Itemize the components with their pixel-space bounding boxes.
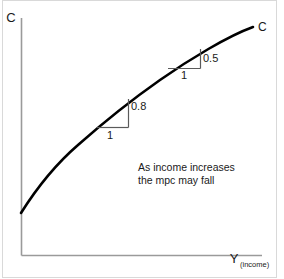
annotation-line-2: the mpc may fall — [138, 174, 214, 186]
y-axis-label: C — [6, 10, 15, 25]
x-axis-label: Y — [230, 251, 239, 266]
lower-slope-run-label: 1 — [107, 129, 113, 141]
consumption-function-figure: C Y (income) C 0.8 1 0.5 1 As income inc… — [0, 0, 284, 279]
chart-canvas: C Y (income) C 0.8 1 0.5 1 As income inc… — [0, 0, 284, 279]
figure-frame — [3, 1, 277, 278]
upper-slope-rise-label: 0.5 — [203, 52, 218, 64]
annotation-line-1: As income increases — [138, 161, 235, 173]
x-axis-sublabel: (income) — [240, 260, 270, 269]
lower-slope-rise-label: 0.8 — [131, 100, 146, 112]
curve-label: C — [258, 20, 267, 34]
upper-slope-run-label: 1 — [181, 69, 187, 81]
